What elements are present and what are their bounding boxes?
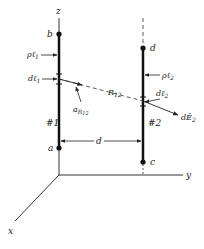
two-line-charges-diagram: z y x b a #1 ρℓ1 dℓ1 d c #2 ρℓ2 dℓ2 R12 … xyxy=(0,0,204,249)
endpoint-b xyxy=(56,31,61,36)
unit-vector-label: aR12 xyxy=(73,105,89,116)
x-axis-label: x xyxy=(8,226,13,236)
endpoint-d-label: d xyxy=(150,43,156,53)
separation-label: R12 xyxy=(107,88,122,98)
element-2-arrow xyxy=(145,99,160,102)
unit-vector-arrow-head xyxy=(59,79,82,85)
y-axis-label: y xyxy=(185,170,192,180)
unit-vector-pointer xyxy=(76,87,81,102)
element-2-label: dℓ2 xyxy=(156,89,168,99)
endpoint-c-label: c xyxy=(150,157,155,167)
endpoint-b-label: b xyxy=(47,29,53,39)
distance-label: d xyxy=(96,136,102,146)
endpoint-c xyxy=(140,159,145,164)
line-1-id: #1 xyxy=(46,118,59,128)
z-axis-label: z xyxy=(55,6,61,16)
endpoint-a xyxy=(56,145,61,150)
endpoint-d xyxy=(140,45,145,50)
element-1-label: dℓ1 xyxy=(28,74,40,84)
line-2-id: #2 xyxy=(148,118,162,128)
x-axis xyxy=(15,175,59,221)
charge-density-2-label: ρℓ2 xyxy=(161,71,174,81)
field-vector-arrow xyxy=(143,101,178,115)
field-vector-label: dĒ2 xyxy=(181,113,196,123)
charge-density-1-label: ρℓ1 xyxy=(26,50,39,60)
endpoint-a-label: a xyxy=(48,143,53,153)
